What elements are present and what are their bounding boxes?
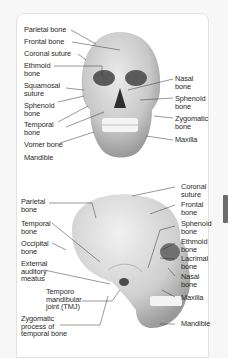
label-tmj: Temporo mandibular joint (TMJ) (46, 288, 82, 311)
label-zygomatic-process: Zygomatic process of temporal bone (21, 315, 67, 338)
label-occipital-bone: Occipital bone (21, 240, 48, 255)
label-sphenoid-bone-front: Sphenoid bone (24, 102, 54, 117)
label-squamosal-suture: Squamosal suture (24, 82, 60, 97)
label-frontal-bone-lateral: Frontal bone (181, 201, 203, 216)
label-sphenoid-bone-lateral: Sphenoid bone (181, 220, 211, 235)
label-nasal-bone-lateral: Nasal bone (181, 273, 199, 288)
label-vomer-bone: Vomer bone (24, 141, 63, 149)
label-temporal-bone-lateral: Temporal bone (21, 220, 51, 235)
label-maxilla-front: Maxilla (175, 136, 197, 144)
label-sphenoid-bone-front-right: Sphenoid bone (175, 95, 205, 110)
label-mandible-front: Mandible (24, 154, 53, 162)
label-coronal-suture-lateral: Coronal suture (181, 183, 206, 198)
label-coronal-suture: Coronal suture (24, 50, 71, 58)
label-lacrimal-bone: Lacrimal bone (181, 255, 208, 270)
label-mandible-lateral: Mandible (181, 320, 210, 328)
label-parietal-bone-lateral: Parietal bone (21, 198, 45, 213)
label-ethmoid-bone-lateral: Ethmoid bone (181, 238, 207, 253)
label-zygomatic-bone: Zygomatic bone (175, 115, 208, 130)
lateral-skull (72, 194, 190, 328)
label-temporal-bone-front: Temporal bone (24, 121, 54, 136)
label-external-auditory-meatus: External auditory meatus (21, 260, 47, 283)
label-ethmoid-bone: Ethmoid bone (24, 62, 50, 77)
label-maxilla-lateral: Maxilla (181, 294, 203, 302)
label-nasal-bone-front: Nasal bone (175, 75, 193, 90)
label-frontal-bone: Frontal bone (24, 38, 64, 46)
label-parietal-bone: Parietal bone (24, 26, 66, 34)
frontal-skull (82, 32, 160, 158)
